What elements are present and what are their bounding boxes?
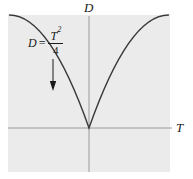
equation-annotation: D = T2 4 [28, 29, 63, 56]
equation-fraction: T2 4 [48, 29, 63, 56]
equation-equals-sign: = [39, 37, 46, 49]
annotation-arrow-head [50, 81, 56, 91]
numerator-exponent: 2 [57, 25, 61, 34]
plot-overlay [0, 0, 193, 179]
parabola-figure: D T D = T2 4 [0, 0, 193, 179]
fraction-numerator: T2 [48, 29, 63, 43]
horizontal-axis-label: T [176, 121, 183, 134]
fraction-denominator: 4 [53, 44, 59, 56]
vertical-axis-label: D [84, 1, 93, 14]
equation-left-side: D [28, 37, 37, 49]
